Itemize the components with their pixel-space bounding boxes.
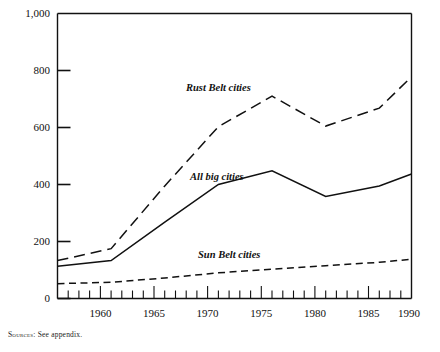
x-tick-label-1980: 1980 [304,307,327,319]
y-tick-label-800: 800 [34,64,51,76]
x-tick-label-1960: 1960 [89,307,112,319]
x-axis-minor-ticks [68,291,401,299]
series-line-rust-belt-cities [58,77,412,261]
x-tick-label-1965: 1965 [143,307,166,319]
series-label-all-big-cities: All big cities [189,171,244,182]
x-tick-label-1990: 1990 [398,307,421,319]
line-chart: 0 200 400 600 800 1,000 [0,0,440,352]
y-tick-label-400: 400 [34,178,51,190]
y-tick-label-0: 0 [45,292,51,304]
source-note-prefix: Sources: [8,330,36,339]
y-tick-label-600: 600 [34,121,51,133]
x-axis-major-ticks [100,286,368,299]
y-axis-labels: 0 200 400 600 800 1,000 [25,7,50,304]
source-note: Sources: See appendix. [8,330,82,339]
y-tick-label-1000: 1,000 [25,7,50,19]
y-axis-ticks [58,71,71,299]
source-note-text: See appendix. [38,330,83,339]
y-tick-label-200: 200 [34,235,51,247]
series-annotations: Rust Belt cities All big cities Sun Belt… [185,82,260,260]
x-tick-label-1975: 1975 [250,307,273,319]
x-tick-label-1985: 1985 [358,307,381,319]
x-axis-labels: 1960 1965 1970 1975 1980 1985 1990 [89,307,420,319]
x-tick-label-1970: 1970 [197,307,220,319]
series-line-sun-belt-cities [58,259,412,284]
series-label-rust-belt-cities: Rust Belt cities [185,82,251,93]
series-label-sun-belt-cities: Sun Belt cities [198,249,260,260]
